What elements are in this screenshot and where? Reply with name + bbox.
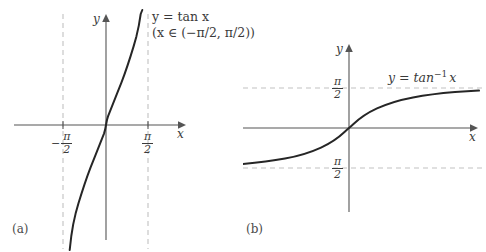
curve-label-arctangent-suffix: x (449, 70, 456, 85)
x-axis-label-b: x (469, 131, 476, 143)
fraction-denominator: 2 (334, 89, 341, 101)
tick-label-pi-over-2: π 2 (142, 131, 153, 155)
y-axis-label-b: y (336, 43, 343, 55)
y-axis-label-a: y (93, 13, 100, 25)
curve-label-arctangent-exponent: −1 (434, 69, 447, 79)
caption-a: (a) (12, 222, 29, 236)
caption-b: (b) (246, 222, 263, 236)
fraction-numerator: π (332, 76, 343, 89)
fraction-numerator: π (332, 156, 343, 169)
y-axis-arrowhead-a (102, 14, 110, 22)
fraction-denominator: 2 (334, 169, 341, 181)
panel-b-plot (243, 0, 486, 252)
panel-a-tangent: y x − π 2 π 2 y = tan x (x ∈ (−π/2, π/2)… (0, 0, 243, 252)
tick-label-neg-pi-over-2: − π 2 (51, 131, 72, 155)
fraction-numerator: π (142, 131, 153, 144)
tick-label-lower-pi-over-2: π 2 (332, 156, 343, 180)
x-axis-label-a: x (177, 128, 184, 140)
minus-sign: − (51, 137, 60, 150)
curve-label-arctangent-prefix: y = tan (388, 70, 434, 85)
curve-label-arctangent: y = tan−1x (388, 70, 456, 85)
curve-label-tangent: y = tan x (152, 11, 209, 24)
tick-label-upper-pi-over-2: π 2 (332, 76, 343, 100)
y-axis-arrowhead-b (345, 44, 353, 52)
fraction-denominator: 2 (144, 144, 151, 156)
figure-container: y x − π 2 π 2 y = tan x (x ∈ (−π/2, π/2)… (0, 0, 486, 252)
fraction-denominator: 2 (63, 144, 70, 156)
panel-b-arctangent: y x π 2 π 2 y = tan−1x (b) (243, 0, 486, 252)
arctangent-curve (243, 91, 479, 164)
fraction-numerator: π (61, 131, 72, 144)
curve-label-tangent-domain: (x ∈ (−π/2, π/2)) (152, 27, 255, 40)
